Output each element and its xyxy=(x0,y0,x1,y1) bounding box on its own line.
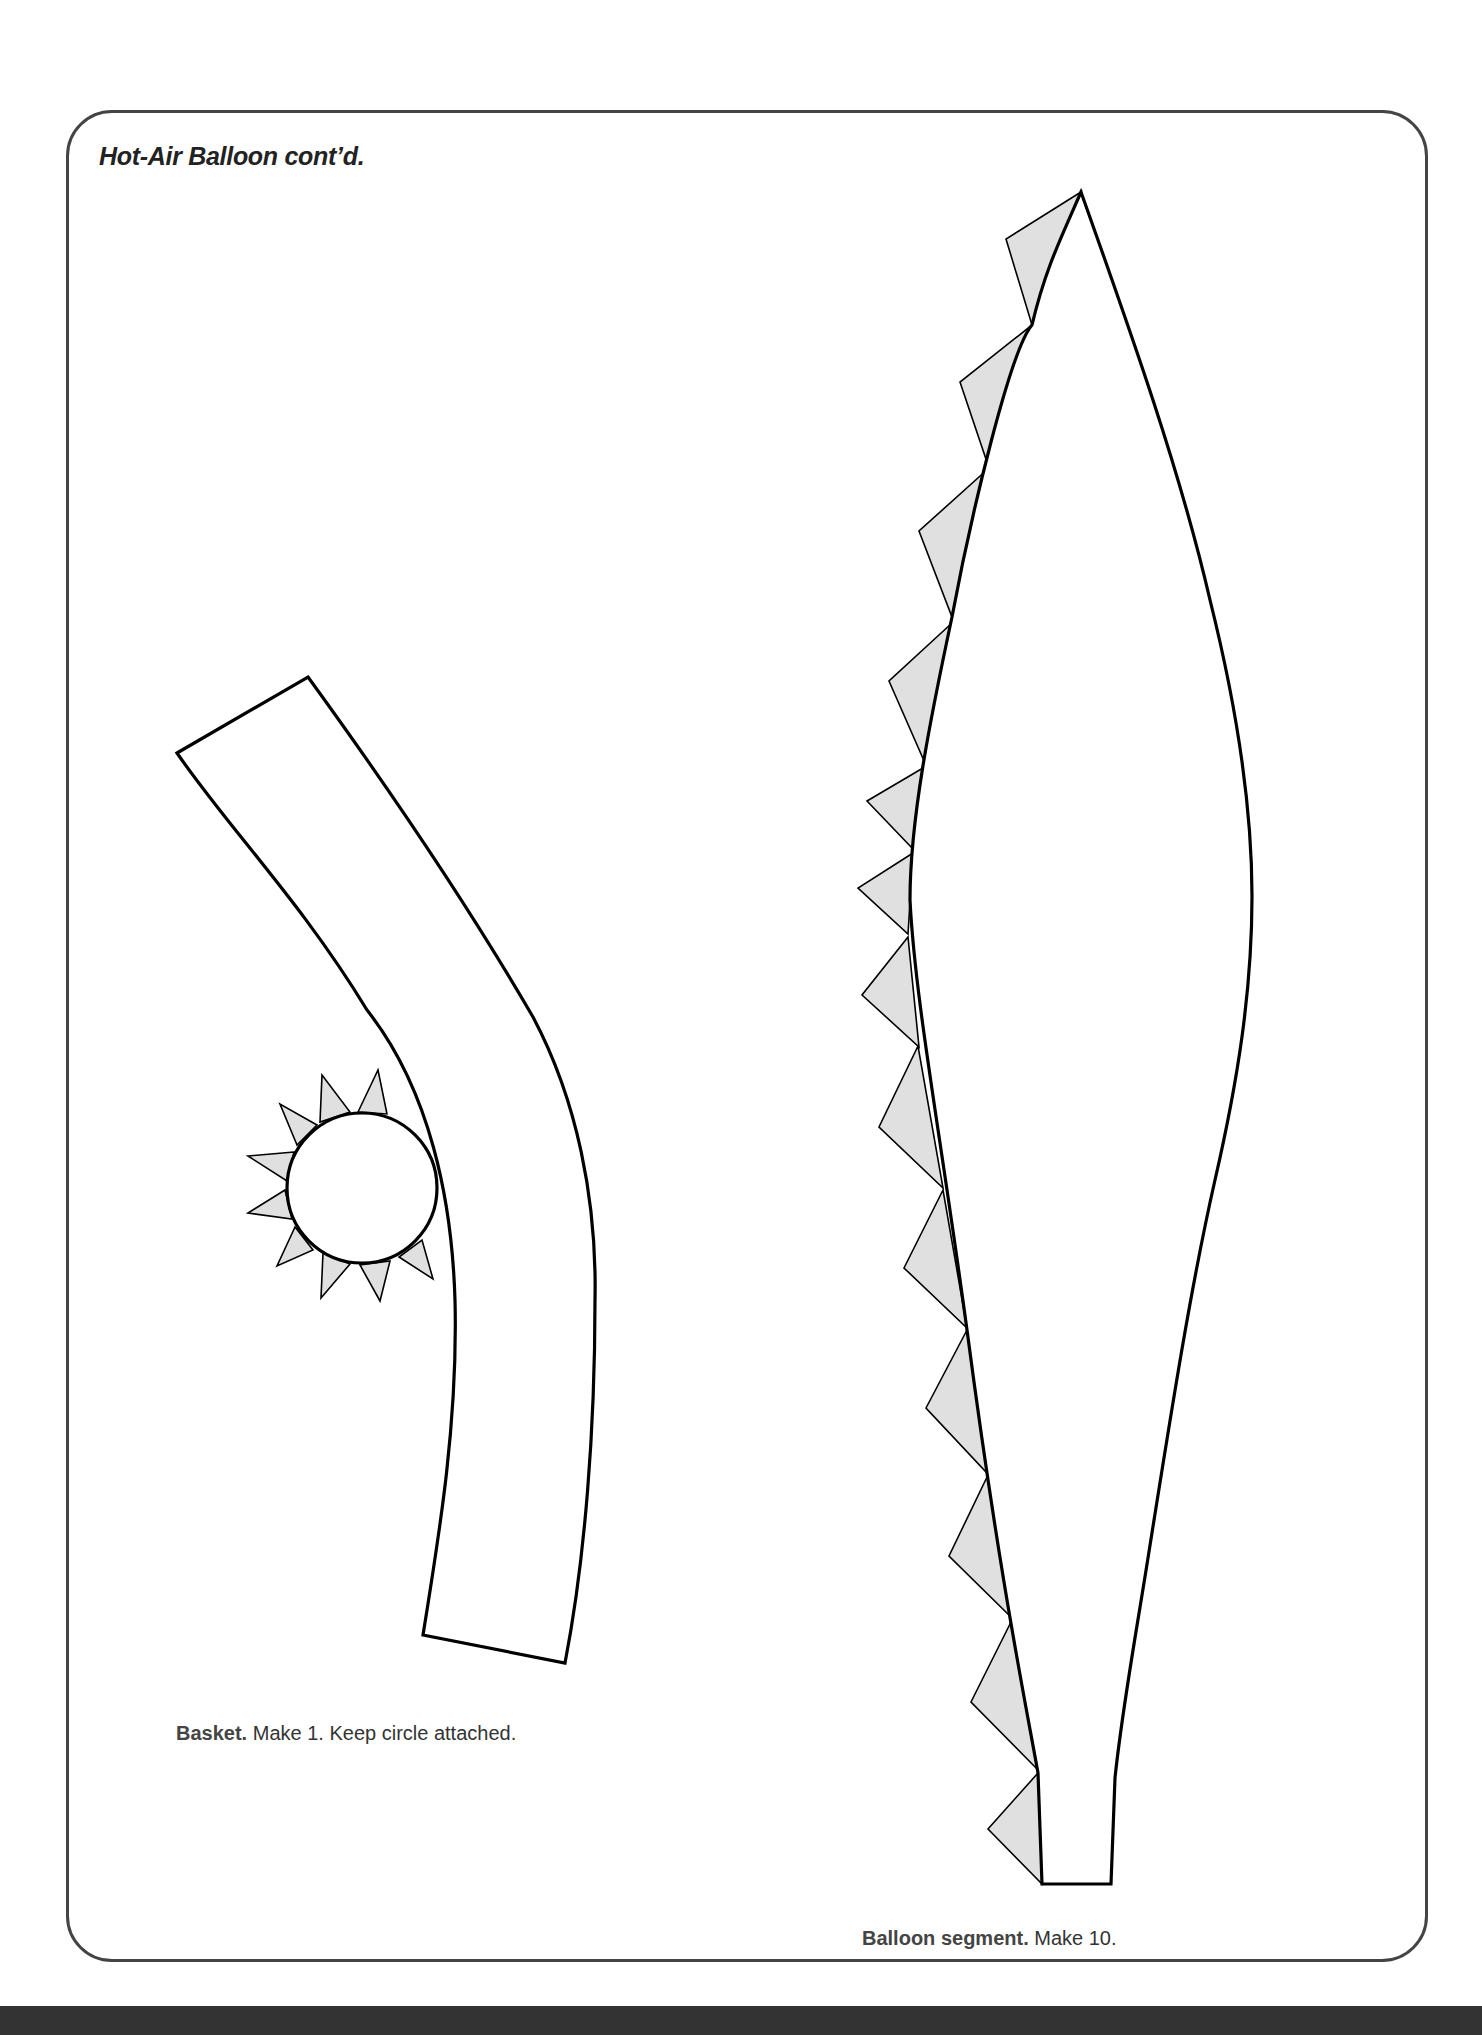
basket-caption-label: Basket. xyxy=(176,1722,247,1744)
basket-caption-instructions: Make 1. Keep circle attached. xyxy=(253,1722,516,1744)
balloon-segment-template xyxy=(858,192,1252,1884)
basket-caption: Basket. Make 1. Keep circle attached. xyxy=(176,1722,516,1745)
bottom-scan-band xyxy=(0,2006,1482,2035)
balloon-segment-caption-instructions: Make 10. xyxy=(1034,1927,1116,1949)
basket-circle xyxy=(287,1113,437,1263)
balloon-segment-outline xyxy=(910,192,1252,1884)
balloon-segment-caption-label: Balloon segment. xyxy=(862,1927,1029,1949)
basket-template xyxy=(177,677,595,1663)
balloon-segment-caption: Balloon segment. Make 10. xyxy=(862,1927,1117,1950)
